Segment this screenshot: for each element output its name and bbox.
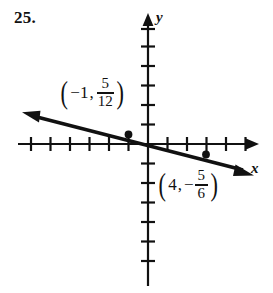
point-b-x-value: 4	[167, 176, 178, 193]
point-a-fraction: 5 12	[96, 76, 115, 110]
open-paren: (	[60, 80, 67, 105]
close-paren: )	[116, 80, 123, 105]
point-a-numerator: 5	[100, 76, 110, 92]
x-axis-arrowhead	[246, 139, 259, 150]
point-a-denominator: 12	[97, 94, 114, 110]
point-b-label: ( 4 , − 5 6 )	[157, 168, 219, 202]
coordinate-plane-graph	[0, 0, 273, 293]
point-a-x-value: −1	[69, 84, 89, 101]
y-axis-label: y	[156, 9, 163, 26]
point-b-fraction: 5 6	[194, 168, 209, 202]
figure-container: 25.	[0, 0, 273, 293]
point-b-numerator: 5	[196, 168, 206, 184]
x-axis-label: x	[251, 160, 259, 177]
plotted-line-left-arrowhead	[22, 111, 41, 123]
data-point-b	[202, 151, 210, 159]
open-paren: (	[158, 172, 165, 197]
data-point-a	[125, 131, 133, 139]
point-b-minus-sign: −	[184, 176, 194, 193]
point-a-label: ( −1 , 5 12 )	[59, 76, 125, 110]
close-paren: )	[210, 172, 217, 197]
y-axis-arrowhead	[143, 13, 154, 26]
point-b-denominator: 6	[196, 186, 206, 202]
